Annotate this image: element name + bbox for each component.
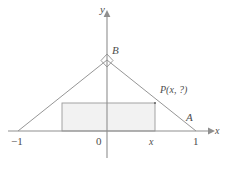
point-p-label: P(x, ?)	[160, 85, 187, 95]
x-tick-label-x: x	[149, 137, 153, 147]
point-a-label: A	[186, 112, 193, 123]
x-tick-label-minus-one: −1	[11, 136, 23, 147]
x-tick-label-one: 1	[193, 136, 199, 147]
geometry-figure: y B P(x, ?) A x −1 0 x 1	[0, 0, 227, 171]
x-axis-label: x	[215, 126, 219, 136]
inscribed-rectangle	[62, 103, 155, 131]
y-axis-label: y	[100, 4, 105, 15]
x-axis-arrow-icon	[208, 128, 215, 135]
x-tick-label-zero: 0	[96, 136, 102, 147]
point-b-label: B	[112, 45, 119, 56]
